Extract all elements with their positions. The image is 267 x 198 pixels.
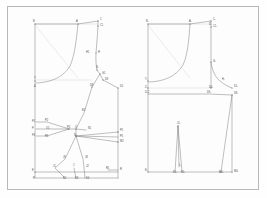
point-label-j1-: J1-: [177, 121, 181, 125]
point-label-m2: M2: [120, 139, 124, 143]
left-panel-vertex-markers: [35, 21, 119, 173]
right-panel-construction-lines: [148, 24, 211, 88]
point-label-d1-: D1-: [234, 84, 238, 88]
point-label-b-: B-: [146, 19, 149, 23]
point-label-k1-: K1-: [173, 170, 177, 174]
point-label-f: F: [32, 126, 34, 130]
point-label-k3: K3: [75, 176, 79, 180]
point-label-d8-: D8-: [234, 91, 238, 95]
point-label-k4: K4: [86, 176, 90, 180]
point-label-o1: O1: [46, 126, 50, 130]
left-panel-outline: [35, 21, 118, 178]
point-label-d-2: D-2: [145, 90, 150, 94]
point-label-r1: R1: [106, 166, 110, 170]
point-label-p1: P1: [120, 128, 124, 132]
point-label-b: B: [33, 19, 35, 23]
point-label-p5: P5: [120, 134, 124, 138]
point-label-m1-: M1-: [219, 170, 224, 174]
point-label-n1: N1: [88, 126, 92, 130]
point-label-j8: J8: [85, 155, 88, 159]
point-label-r: R: [120, 167, 122, 171]
point-label-d1: D1: [120, 84, 124, 88]
point-label-h: H: [98, 50, 100, 54]
point-label-z: Z: [34, 84, 36, 88]
point-label-g: G: [96, 65, 98, 69]
point-label-e-: E-: [145, 168, 148, 172]
point-label-c: C: [100, 17, 102, 21]
point-label-p4: P4: [67, 125, 71, 129]
point-label-y: Y: [34, 76, 36, 80]
point-label-j2: J2: [86, 164, 89, 168]
point-label-p2: P2: [45, 118, 49, 122]
point-label-e2: E2: [82, 108, 86, 112]
point-label-c1-: C1-: [213, 24, 217, 28]
point-label-d8: D8: [90, 83, 94, 87]
point-label-d0-: D0-: [209, 85, 213, 89]
pattern-draft-canvas: BACC1H1HGG1D9D8D1YZE2F1P2FO1F3P6P4ON1NP1…: [0, 0, 267, 198]
point-label-o: O: [75, 125, 77, 129]
point-label-c-: C-: [213, 17, 216, 21]
point-label-a-: A-: [189, 19, 192, 23]
right-panel-point-labels: B-A-C-C1-D-G-H-Y-Z-D0-D1-D-2D9-D8-J1-K1-…: [145, 17, 239, 174]
point-label-n: N: [74, 133, 76, 137]
point-label-d9: D9: [105, 77, 109, 81]
point-label-g-: G-: [213, 59, 216, 63]
point-label-m0-: M0-: [234, 169, 239, 173]
point-label-g1: G1: [102, 71, 106, 75]
point-label-l-: L-: [179, 163, 181, 167]
point-label-h1: H1: [86, 50, 90, 54]
point-label-y-: Y-: [145, 77, 147, 81]
point-label-p: P: [33, 176, 35, 180]
left-panel-point-labels: BACC1H1HGG1D9D8D1YZE2F1P2FO1F3P6P4ON1NP1…: [32, 17, 124, 180]
point-label-j: J: [73, 163, 75, 167]
point-label-e: E: [32, 168, 34, 172]
point-label-d-: D-: [209, 22, 212, 26]
point-label-a: A: [76, 19, 78, 23]
point-label-d9-: D9-: [207, 90, 211, 94]
right-panel-vertex-markers: [148, 21, 233, 173]
point-label-c1: C1: [100, 23, 104, 27]
point-label-k5-: K5-: [181, 170, 185, 174]
pattern-draft-drawing: BACC1H1HGG1D9D8D1YZE2F1P2FO1F3P6P4ON1NP1…: [0, 0, 267, 198]
point-label-z-: Z-: [145, 85, 148, 89]
point-label-k2: K2: [63, 176, 67, 180]
point-label-h-: H-: [222, 77, 225, 81]
right-panel-outline: [148, 21, 232, 172]
point-label-p6: P6: [45, 134, 49, 138]
